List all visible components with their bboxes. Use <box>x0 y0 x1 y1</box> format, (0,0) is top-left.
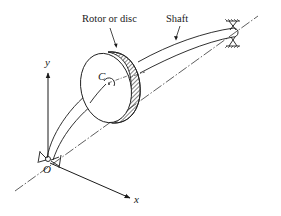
rotor-label: Rotor or disc <box>82 13 137 24</box>
y-axis-label: y <box>44 56 50 68</box>
shaft-leader <box>176 26 180 38</box>
rotor-disc: C <box>74 49 140 128</box>
right-bearing <box>225 19 240 48</box>
rotor-shaft-diagram: y x C <box>0 0 281 216</box>
center-of-mass-dot <box>108 83 110 85</box>
origin-label: O <box>43 163 51 175</box>
center-label: C <box>98 70 106 82</box>
x-axis <box>50 163 130 198</box>
rotor-leader <box>110 28 116 46</box>
x-axis-label: x <box>133 193 139 205</box>
shaft-label: Shaft <box>166 13 188 24</box>
